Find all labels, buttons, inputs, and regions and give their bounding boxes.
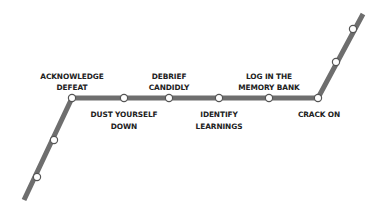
label-acknowledge-defeat-line1: ACKNOWLEDGE [40, 72, 103, 81]
metro-diagram: ACKNOWLEDGE DEFEAT DEBRIEF CANDIDLY LOG … [0, 0, 383, 215]
station-marker [50, 136, 57, 143]
station-dust-yourself-down [120, 94, 127, 101]
label-dust-yourself-down-line1: DUST YOURSELF [91, 110, 158, 119]
label-log-in-memory-bank-line1: LOG IN THE [246, 72, 292, 81]
station-crack-on [314, 94, 321, 101]
label-crack-on: CRACK ON [298, 110, 340, 119]
label-debrief-candidly-line2: CANDIDLY [149, 83, 190, 92]
station-marker [33, 173, 40, 180]
station-marker [332, 58, 339, 65]
track-line [24, 14, 363, 200]
label-dust-yourself-down-line2: DOWN [111, 122, 137, 131]
station-acknowledge-defeat [68, 94, 75, 101]
station-log-in-memory-bank [265, 94, 272, 101]
label-identify-learnings-line1: IDENTIFY [200, 110, 238, 119]
label-acknowledge-defeat-line2: DEFEAT [57, 83, 88, 92]
station-identify-learnings [215, 94, 222, 101]
stations [33, 25, 356, 180]
label-debrief-candidly-line1: DEBRIEF [152, 72, 187, 81]
label-log-in-memory-bank-line2: MEMORY BANK [238, 83, 300, 92]
station-marker [349, 25, 356, 32]
label-identify-learnings-line2: LEARNINGS [196, 122, 243, 131]
station-debrief-candidly [165, 94, 172, 101]
